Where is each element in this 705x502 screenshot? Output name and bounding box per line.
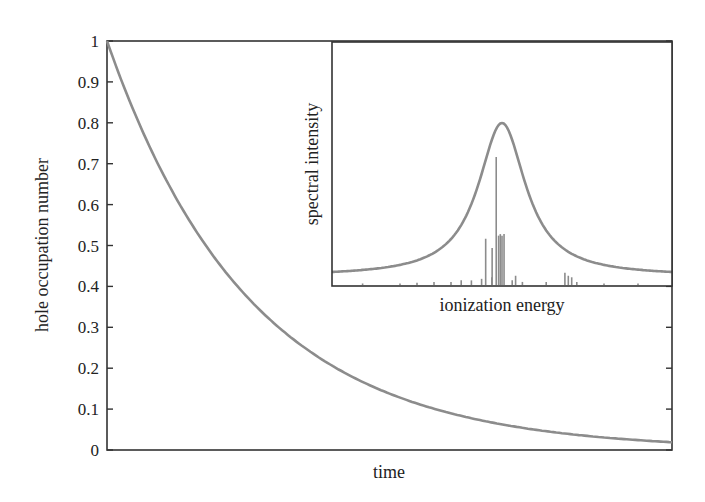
y-tick-label: 0 [91,441,100,460]
y-tick-label: 0.9 [78,73,99,92]
chart-canvas: 00.10.20.30.40.50.60.70.80.91 time hole … [0,0,705,502]
y-axis-label: hole occupation number [32,158,52,332]
y-tick-label: 0.8 [78,114,99,133]
y-tick-label: 0.3 [78,318,99,337]
y-tick-label: 1 [91,32,100,51]
inset-plot: ionization energy spectral intensity [302,42,672,315]
y-tick-label: 0.6 [78,196,99,215]
x-axis-label: time [373,462,405,482]
y-tick-label: 0.4 [78,277,100,296]
y-tick-label: 0.2 [78,359,99,378]
inset-y-axis-label: spectral intensity [302,103,322,225]
y-tick-label: 0.1 [78,400,99,419]
inset-x-axis-label: ionization energy [439,295,564,315]
y-tick-label: 0.7 [78,155,100,174]
y-tick-label: 0.5 [78,237,99,256]
